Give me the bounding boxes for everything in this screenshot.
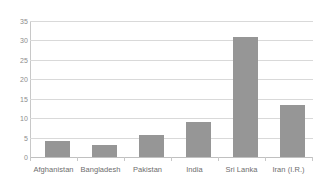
y-tick-label: 15 bbox=[2, 96, 28, 103]
gridline bbox=[30, 118, 313, 119]
y-tick-label: 5 bbox=[2, 135, 28, 142]
x-axis-tick bbox=[124, 157, 125, 161]
gridline bbox=[30, 99, 313, 100]
y-tick-label: 30 bbox=[2, 37, 28, 44]
gridline bbox=[30, 40, 313, 41]
x-axis-tick bbox=[312, 157, 313, 161]
bar-bangladesh bbox=[92, 145, 117, 157]
x-axis-tick bbox=[218, 157, 219, 161]
plot-area bbox=[30, 21, 313, 157]
y-axis-tick-labels: 35 30 25 20 15 10 5 0 bbox=[0, 0, 28, 188]
y-tick-label: 10 bbox=[2, 115, 28, 122]
x-axis-tick bbox=[171, 157, 172, 161]
bar-pakistan bbox=[139, 135, 164, 157]
y-tick-label: 0 bbox=[2, 154, 28, 161]
bar-chart: 35 30 25 20 15 10 5 0 Afghanistan Bangla… bbox=[0, 0, 317, 188]
bar-sri-lanka bbox=[233, 37, 258, 157]
gridline bbox=[30, 21, 313, 22]
x-axis-tick bbox=[265, 157, 266, 161]
x-axis-tick bbox=[30, 157, 31, 161]
gridline bbox=[30, 138, 313, 139]
bar-afghanistan bbox=[45, 141, 70, 157]
gridline bbox=[30, 79, 313, 80]
y-tick-label: 25 bbox=[2, 57, 28, 64]
bar-iran bbox=[280, 105, 305, 157]
x-tick-label-iran: Iran (I.R.) bbox=[257, 165, 318, 174]
bar-india bbox=[186, 122, 211, 157]
y-tick-label: 35 bbox=[2, 18, 28, 25]
gridline bbox=[30, 60, 313, 61]
y-tick-label: 20 bbox=[2, 76, 28, 83]
x-axis-tick bbox=[77, 157, 78, 161]
